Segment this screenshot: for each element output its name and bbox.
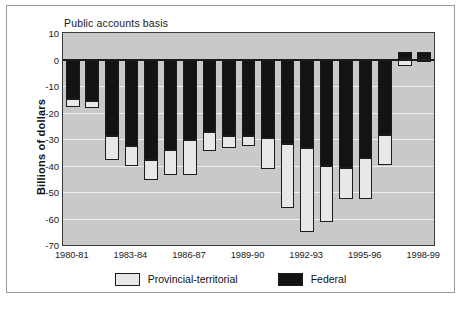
bar-segment-provincial-territorial[interactable] bbox=[281, 144, 295, 208]
y-axis-tick: 0 bbox=[54, 54, 59, 65]
x-axis-tick: 1989-90 bbox=[231, 250, 264, 260]
bar-segment-federal[interactable] bbox=[300, 60, 314, 149]
chart-legend: Provincial-territorial Federal bbox=[7, 268, 454, 290]
bar-group[interactable] bbox=[242, 33, 256, 245]
x-axis-tick: 1980-81 bbox=[55, 250, 88, 260]
y-axis-tick-labels: 100-10-20-30-40-50-60-70 bbox=[27, 32, 59, 246]
plot-inner bbox=[63, 33, 434, 245]
bar-segment-provincial-territorial[interactable] bbox=[378, 135, 392, 165]
y-axis-tick: -30 bbox=[45, 134, 59, 145]
x-axis-tick: 1992-93 bbox=[289, 250, 322, 260]
bar-group[interactable] bbox=[125, 33, 139, 245]
bar-segment-provincial-territorial[interactable] bbox=[183, 140, 197, 174]
legend-item-federal: Federal bbox=[278, 273, 347, 286]
bar-segment-provincial-territorial[interactable] bbox=[66, 99, 80, 107]
bar-group[interactable] bbox=[339, 33, 353, 245]
x-axis-tick: 1998-99 bbox=[407, 250, 440, 260]
bar-segment-federal[interactable] bbox=[261, 60, 275, 138]
bar-segment-provincial-territorial[interactable] bbox=[242, 136, 256, 145]
x-axis-tick-labels: 1980-811983-841986-871989-901992-931995-… bbox=[62, 250, 435, 264]
bar-segment-provincial-territorial[interactable] bbox=[222, 136, 236, 148]
bar-segment-federal[interactable] bbox=[105, 60, 119, 137]
bar-segment-federal[interactable] bbox=[320, 60, 334, 166]
y-axis-tick: -10 bbox=[45, 81, 59, 92]
bar-group[interactable] bbox=[261, 33, 275, 245]
bar-group[interactable] bbox=[398, 33, 412, 245]
bar-segment-federal[interactable] bbox=[125, 60, 139, 146]
bar-group[interactable] bbox=[66, 33, 80, 245]
zero-line bbox=[63, 59, 434, 61]
bar-segment-provincial-territorial[interactable] bbox=[300, 148, 314, 231]
bar-group[interactable] bbox=[378, 33, 392, 245]
plot-area bbox=[62, 32, 435, 246]
light-square-swatch bbox=[115, 273, 140, 286]
bar-group[interactable] bbox=[105, 33, 119, 245]
y-axis-tick: 10 bbox=[48, 28, 59, 39]
bar-segment-provincial-territorial[interactable] bbox=[105, 136, 119, 159]
legend-label-federal: Federal bbox=[311, 273, 347, 285]
bar-segment-federal[interactable] bbox=[203, 60, 217, 133]
y-axis-tick: -20 bbox=[45, 107, 59, 118]
y-axis-tick: -50 bbox=[45, 187, 59, 198]
bar-group[interactable] bbox=[300, 33, 314, 245]
bar-segment-provincial-territorial[interactable] bbox=[320, 166, 334, 223]
bar-group[interactable] bbox=[144, 33, 158, 245]
bar-group[interactable] bbox=[359, 33, 373, 245]
bar-segment-provincial-territorial[interactable] bbox=[339, 168, 353, 198]
legend-item-provincial-territorial: Provincial-territorial bbox=[115, 273, 238, 286]
x-axis-tick: 1986-87 bbox=[172, 250, 205, 260]
bar-segment-provincial-territorial[interactable] bbox=[85, 101, 99, 108]
bar-segment-provincial-territorial[interactable] bbox=[144, 160, 158, 180]
bar-segment-provincial-territorial[interactable] bbox=[164, 150, 178, 175]
bar-segment-federal[interactable] bbox=[339, 60, 353, 169]
chart-title: Public accounts basis bbox=[64, 17, 168, 29]
bar-segment-federal[interactable] bbox=[144, 60, 158, 161]
bar-segment-federal[interactable] bbox=[66, 60, 80, 99]
bar-segment-federal[interactable] bbox=[222, 60, 236, 136]
bar-group[interactable] bbox=[183, 33, 197, 245]
bar-group[interactable] bbox=[85, 33, 99, 245]
bar-segment-provincial-territorial[interactable] bbox=[203, 132, 217, 151]
bar-group[interactable] bbox=[222, 33, 236, 245]
bar-group[interactable] bbox=[203, 33, 217, 245]
y-axis-tick: -70 bbox=[45, 240, 59, 251]
bar-segment-federal[interactable] bbox=[281, 60, 295, 145]
bar-segment-provincial-territorial[interactable] bbox=[125, 146, 139, 166]
y-axis-tick: -40 bbox=[45, 160, 59, 171]
bar-group[interactable] bbox=[164, 33, 178, 245]
bar-segment-federal[interactable] bbox=[378, 60, 392, 136]
chart-frame: Public accounts basis Billions of dollar… bbox=[6, 5, 455, 293]
bar-segment-federal[interactable] bbox=[85, 60, 99, 102]
y-axis-tick: -60 bbox=[45, 213, 59, 224]
dark-square-swatch bbox=[278, 273, 303, 286]
bar-group[interactable] bbox=[281, 33, 295, 245]
bar-segment-federal[interactable] bbox=[359, 60, 373, 158]
bar-segment-federal[interactable] bbox=[164, 60, 178, 150]
legend-label-provincial-territorial: Provincial-territorial bbox=[148, 273, 238, 285]
bar-group[interactable] bbox=[417, 33, 431, 245]
bar-segment-provincial-territorial[interactable] bbox=[261, 138, 275, 170]
bar-segment-federal[interactable] bbox=[183, 60, 197, 141]
x-axis-tick: 1983-84 bbox=[114, 250, 147, 260]
x-axis-tick: 1995-96 bbox=[348, 250, 381, 260]
bar-segment-federal[interactable] bbox=[242, 60, 256, 137]
bar-segment-provincial-territorial[interactable] bbox=[359, 158, 373, 199]
bar-group[interactable] bbox=[320, 33, 334, 245]
